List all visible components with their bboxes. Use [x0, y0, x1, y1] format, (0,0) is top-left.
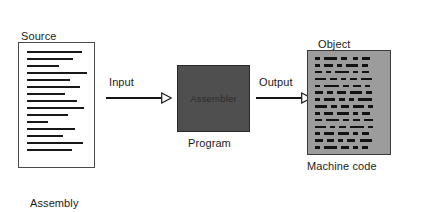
machine-code-row	[315, 125, 384, 128]
machine-code-row	[315, 112, 384, 115]
machine-code-row	[315, 71, 384, 74]
source-code-line	[27, 51, 82, 53]
machine-code-dash	[362, 112, 370, 115]
machine-code-dash	[353, 105, 364, 108]
machine-code-row	[315, 119, 384, 122]
assembly-language-caption-line1: Assembly	[30, 197, 80, 210]
machine-code-dash	[364, 119, 373, 122]
machine-code-dash	[315, 71, 322, 74]
machine-code-dash	[362, 64, 367, 67]
machine-code-dash	[339, 126, 346, 129]
machine-code-dash	[338, 132, 349, 135]
machine-code-dash	[366, 91, 371, 94]
source-program-document	[18, 42, 95, 168]
source-code-line	[27, 107, 84, 109]
object-program-title-line1: Object	[318, 38, 361, 51]
machine-code-row	[315, 98, 384, 101]
source-code-line	[27, 79, 70, 81]
source-code-line	[27, 128, 75, 130]
machine-code-dash	[341, 57, 348, 60]
source-code-lines	[27, 51, 89, 161]
source-code-line	[27, 121, 48, 123]
machine-code-dash	[326, 119, 340, 122]
machine-code-dash	[350, 91, 362, 94]
machine-code-dash	[315, 105, 327, 108]
machine-code-row	[315, 132, 384, 135]
input-arrow-label: Input	[109, 76, 134, 89]
machine-code-dash	[330, 78, 337, 81]
assembly-language-caption: Assembly Language	[30, 172, 80, 212]
machine-code-dash	[361, 78, 372, 81]
machine-code-row	[315, 78, 384, 81]
machine-code-dash	[362, 57, 370, 60]
machine-code-dash	[365, 85, 370, 88]
assembler-program-caption: Program	[188, 137, 231, 150]
machine-code-dash	[346, 64, 358, 67]
machine-code-dash	[337, 112, 349, 115]
machine-code-dash	[324, 57, 336, 60]
machine-code-dash	[327, 139, 334, 142]
machine-code-dash	[362, 71, 369, 74]
source-code-line	[27, 86, 80, 88]
output-arrow-shaft	[256, 97, 302, 99]
machine-code-dash	[324, 85, 339, 88]
assembler-diagram: Source Program Assembly Language Input A…	[0, 0, 430, 212]
machine-code-dash	[347, 139, 355, 142]
object-program-box	[307, 50, 391, 155]
source-code-line	[27, 135, 63, 137]
machine-code-dash	[358, 98, 372, 101]
machine-code-dash	[341, 105, 349, 108]
machine-code-dash	[335, 71, 349, 74]
source-code-line	[27, 142, 83, 144]
source-code-line	[27, 149, 72, 151]
source-code-line	[27, 72, 87, 74]
machine-code-dash	[350, 126, 364, 129]
machine-code-dash	[315, 119, 322, 122]
assembler-box-label: Assembler	[190, 93, 237, 104]
machine-code-row	[315, 64, 384, 67]
machine-code-row	[315, 146, 384, 149]
machine-code-dash	[360, 139, 372, 142]
machine-code-dash	[350, 78, 357, 81]
source-program-title-line1: Source	[21, 30, 64, 43]
input-arrow	[106, 92, 172, 104]
machine-code-dash	[315, 91, 323, 94]
machine-code-dash	[324, 98, 335, 101]
machine-code-dash	[315, 139, 323, 142]
machine-code-row	[315, 91, 384, 94]
input-arrow-shaft	[106, 97, 162, 99]
machine-code-dash	[362, 132, 369, 135]
machine-code-dash	[353, 85, 361, 88]
machine-code-dash	[315, 126, 326, 129]
machine-code-dash	[341, 146, 349, 149]
machine-code-dash	[315, 78, 326, 81]
machine-code-row	[315, 84, 384, 87]
assembler-box: Assembler	[177, 65, 250, 132]
machine-code-dash	[368, 126, 373, 129]
machine-code-dash	[368, 105, 373, 108]
source-code-line	[27, 93, 65, 95]
machine-code-row	[315, 105, 384, 108]
machine-code-dash	[353, 119, 360, 122]
source-code-line	[27, 65, 59, 67]
machine-code-dash	[324, 146, 336, 149]
machine-code-row	[315, 139, 384, 142]
machine-code-dash	[324, 132, 333, 135]
output-arrow-label: Output	[259, 76, 293, 89]
source-code-line	[27, 58, 73, 60]
machine-code-grid	[315, 57, 384, 149]
machine-code-row	[315, 57, 384, 60]
machine-code-dash	[324, 64, 332, 67]
arrow-right-hollow-icon	[161, 92, 172, 104]
machine-code-dash	[324, 112, 332, 115]
machine-code-dash	[337, 91, 346, 94]
source-code-line	[27, 114, 68, 116]
source-code-line	[27, 100, 77, 102]
machine-code-caption: Machine code	[307, 160, 377, 173]
output-arrow	[256, 92, 312, 104]
machine-code-dash	[362, 146, 367, 149]
